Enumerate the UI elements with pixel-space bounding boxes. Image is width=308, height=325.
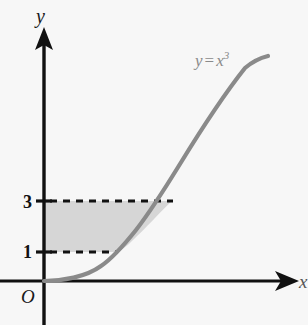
- y-tick-label-1: 1: [16, 242, 32, 263]
- figure-canvas: y x O 3 1 y=x3: [0, 0, 308, 325]
- graph-svg: [0, 0, 308, 325]
- y-tick-label-3: 3: [16, 192, 32, 213]
